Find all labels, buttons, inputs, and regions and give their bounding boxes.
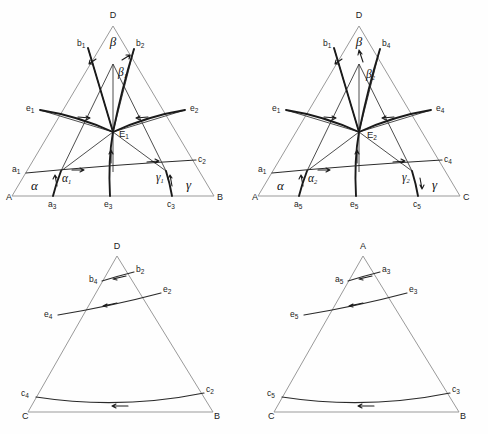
label-e4: e4 bbox=[44, 309, 53, 320]
vertex-label-D: D bbox=[114, 241, 121, 251]
label-alpha: α bbox=[277, 178, 285, 193]
label-b1: b1 bbox=[323, 38, 332, 49]
arrow-c-left bbox=[112, 404, 128, 408]
label-beta: β bbox=[109, 34, 117, 49]
vertex-label-D: D bbox=[110, 10, 117, 20]
curve-c4-c2 bbox=[36, 393, 204, 403]
label-b4: b4 bbox=[89, 274, 98, 285]
label-b4: b4 bbox=[382, 38, 391, 49]
label-a1: a1 bbox=[12, 164, 21, 175]
line-E2-to-e1 bbox=[286, 110, 359, 132]
label-e3: e3 bbox=[409, 284, 418, 295]
label-a5: a5 bbox=[335, 274, 344, 285]
line-E1-to-e1 bbox=[40, 110, 113, 132]
triangle-edge-right bbox=[363, 256, 459, 412]
label-e2: e2 bbox=[163, 284, 172, 295]
vertex-label-C: C bbox=[22, 411, 29, 421]
label-E2: E2 bbox=[367, 129, 377, 141]
label-c3: c3 bbox=[167, 199, 175, 210]
label-e3: e3 bbox=[104, 199, 113, 210]
label-c2: c2 bbox=[206, 384, 214, 395]
label-beta: β bbox=[355, 34, 363, 49]
label-c5: c5 bbox=[413, 199, 421, 210]
triangle-edge-right bbox=[359, 26, 460, 196]
arrow-c5-down bbox=[420, 178, 424, 189]
vertex-label-A: A bbox=[6, 192, 12, 202]
label-e4: e4 bbox=[436, 103, 445, 114]
label-e1: e1 bbox=[272, 103, 281, 114]
vertex-label-B: B bbox=[460, 411, 466, 421]
label-e5: e5 bbox=[290, 309, 299, 320]
vertex-label-A: A bbox=[360, 241, 366, 251]
arrow-a5-up bbox=[299, 175, 303, 186]
figure-svg: D A B b1 b2 e1 e2 a1 c2 a3 e3 c3 β β1 α … bbox=[0, 0, 488, 434]
panel-top-left: D A B b1 b2 e1 e2 a1 c2 a3 e3 c3 β β1 α … bbox=[6, 10, 223, 210]
arrow-a3-up bbox=[53, 175, 57, 186]
triangle-edge-left bbox=[28, 256, 117, 412]
label-c4: c4 bbox=[444, 154, 452, 165]
label-c3: c3 bbox=[452, 384, 460, 395]
label-e2: e2 bbox=[190, 103, 199, 114]
arrow-e-left bbox=[349, 303, 363, 307]
label-e5: e5 bbox=[350, 199, 359, 210]
curve-E1-e3 bbox=[109, 132, 113, 196]
label-E1: E1 bbox=[119, 128, 129, 140]
line-E2-to-alpha2 bbox=[307, 132, 359, 171]
curve-e4-e2 bbox=[58, 293, 161, 315]
vertex-label-A: A bbox=[252, 192, 258, 202]
label-alpha2: α2 bbox=[308, 172, 318, 185]
curve-c5-c3 bbox=[282, 393, 450, 403]
label-e1: e1 bbox=[26, 103, 35, 114]
curve-b1-E1 bbox=[88, 48, 113, 132]
vertex-label-D: D bbox=[356, 10, 363, 20]
label-b1: b1 bbox=[77, 38, 86, 49]
arrow-c-left bbox=[358, 404, 374, 408]
panel-bottom-left: D C B b4 b2 e4 e2 c4 c2 bbox=[21, 241, 220, 421]
triangle-edge-right bbox=[117, 256, 213, 412]
vertex-label-C: C bbox=[463, 192, 470, 202]
label-gamma: γ bbox=[186, 177, 192, 192]
curve-gamma2-c5 bbox=[412, 171, 418, 196]
curve-e5-e3 bbox=[304, 293, 407, 315]
label-gamma: γ bbox=[432, 177, 438, 192]
phase-diagram-figure: D A B b1 b2 e1 e2 a1 c2 a3 e3 c3 β β1 α … bbox=[0, 0, 488, 434]
label-a1: a1 bbox=[258, 164, 267, 175]
label-beta1: β1 bbox=[117, 66, 127, 79]
label-b2: b2 bbox=[136, 264, 145, 275]
line-E1-to-alpha1 bbox=[61, 132, 113, 171]
label-gamma2: γ2 bbox=[402, 171, 411, 184]
label-a5: a5 bbox=[294, 199, 303, 210]
triangle-edge-left bbox=[274, 256, 363, 412]
label-a3: a3 bbox=[48, 199, 57, 210]
label-alpha: α bbox=[31, 178, 39, 193]
vertex-label-B: B bbox=[214, 411, 220, 421]
label-c4: c4 bbox=[21, 388, 29, 399]
label-c2: c2 bbox=[198, 154, 206, 165]
label-c5: c5 bbox=[267, 388, 275, 399]
arrow-beta-up bbox=[358, 50, 363, 62]
panel-bottom-right: A C B a5 a3 e5 e3 c5 c3 bbox=[267, 241, 466, 421]
arrow-b2 bbox=[122, 55, 130, 60]
label-alpha1: α1 bbox=[62, 172, 71, 185]
panel-top-right: D A C b1 b4 e1 e4 a1 c4 a5 e5 c5 β β2 α … bbox=[252, 10, 470, 210]
vertex-label-C: C bbox=[268, 411, 275, 421]
curve-E2-e5 bbox=[355, 132, 359, 196]
label-a3: a3 bbox=[382, 264, 391, 275]
curve-b1-E2 bbox=[334, 48, 359, 132]
arrow-e-left bbox=[103, 303, 117, 307]
vertex-label-B: B bbox=[217, 192, 223, 202]
label-b2: b2 bbox=[136, 38, 145, 49]
label-gamma1: γ1 bbox=[156, 171, 164, 184]
triangle-edge-right bbox=[113, 26, 214, 196]
